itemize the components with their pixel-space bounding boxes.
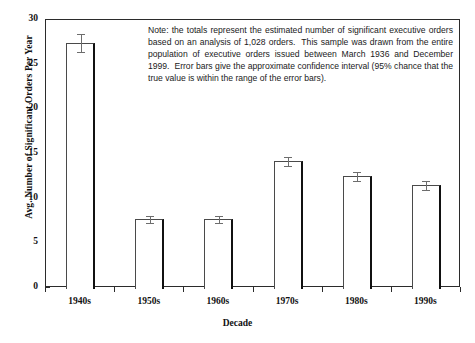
error-bar-cap-lower	[353, 181, 361, 182]
error-bar-cap-upper	[422, 181, 430, 182]
x-tick-mark	[114, 287, 115, 292]
x-tick-label: 1970s	[252, 296, 322, 306]
x-tick-mark	[183, 287, 184, 292]
x-tick-mark	[253, 287, 254, 292]
chart-note-annotation: Note: the totals represent the estimated…	[148, 24, 453, 84]
y-tick-label: 15	[12, 148, 38, 158]
y-tick-label: 25	[12, 59, 38, 69]
x-tick-label: 1980s	[321, 296, 391, 306]
x-tick-mark	[391, 287, 392, 292]
error-bar-stem	[357, 172, 358, 181]
error-bar-cap-upper	[146, 216, 154, 217]
error-bar-cap-lower	[77, 52, 85, 53]
error-bar-cap-lower	[215, 223, 223, 224]
y-tick-label: 0	[12, 282, 38, 292]
x-tick-label: 1940s	[45, 296, 115, 306]
x-tick-mark	[460, 287, 461, 292]
x-tick-mark	[322, 287, 323, 292]
bar	[204, 219, 233, 289]
x-tick-label: 1990s	[390, 296, 460, 306]
error-bar-stem	[288, 157, 289, 166]
error-bar-stem	[81, 34, 82, 52]
y-axis-title: Avg. Number of Significant Orders Per Ye…	[24, 12, 34, 242]
error-bar-stem	[150, 216, 151, 223]
y-tick-label: 10	[12, 193, 38, 203]
bar	[274, 161, 303, 289]
error-bar-cap-upper	[77, 34, 85, 35]
error-bar-cap-upper	[284, 157, 292, 158]
error-bar-stem	[426, 181, 427, 190]
error-bar-cap-upper	[215, 216, 223, 217]
error-bar-cap-lower	[146, 223, 154, 224]
y-tick-label: 30	[12, 14, 38, 24]
error-bar-cap-lower	[284, 166, 292, 167]
bar	[66, 43, 95, 289]
bar	[412, 185, 441, 289]
chart-figure: Avg. Number of Significant Orders Per Ye…	[0, 0, 475, 343]
x-tick-mark	[45, 287, 46, 292]
x-tick-label: 1960s	[183, 296, 253, 306]
x-tick-label: 1950s	[114, 296, 184, 306]
error-bar-stem	[219, 216, 220, 223]
x-axis-title: Decade	[0, 318, 475, 328]
error-bar-cap-upper	[353, 172, 361, 173]
y-tick-label: 5	[12, 237, 38, 247]
bar	[343, 176, 372, 289]
bar	[135, 219, 164, 289]
error-bar-cap-lower	[422, 190, 430, 191]
y-tick-label: 20	[12, 103, 38, 113]
